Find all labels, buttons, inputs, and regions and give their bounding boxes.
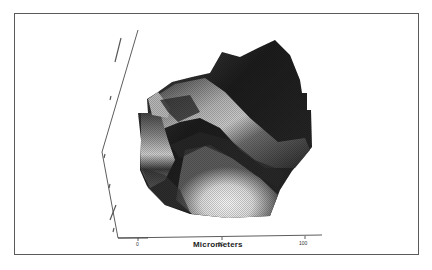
x-tick-100: 100 <box>299 240 307 246</box>
surface-plot <box>0 0 432 270</box>
x-axis-label: Micrometers <box>193 240 243 249</box>
z-axis-labels <box>104 38 121 232</box>
x-tick-0: 0 <box>136 241 139 247</box>
x-axis-line <box>118 235 322 238</box>
